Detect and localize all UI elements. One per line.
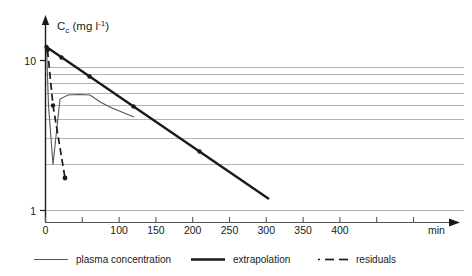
y-axis-title: Cc (mg l-1) bbox=[57, 19, 109, 35]
x-tick-label: 0 bbox=[43, 224, 49, 236]
x-axis-unit-label: min bbox=[428, 224, 445, 236]
x-tick-label: 400 bbox=[331, 224, 349, 236]
y-ticks bbox=[40, 61, 45, 211]
chart-legend: plasma concentration extrapolation resid… bbox=[34, 254, 396, 265]
y-axis-title-unit-open: (mg l bbox=[73, 20, 99, 32]
legend-label-extrapolation: extrapolation bbox=[233, 254, 290, 265]
series-extrapolation bbox=[47, 47, 270, 199]
x-tick-label: 150 bbox=[147, 224, 165, 236]
series-residuals bbox=[48, 50, 66, 178]
x-tick-labels: 0 100 150 200 250 300 350 400 bbox=[43, 224, 349, 236]
y-axis-title-unit-close: ) bbox=[105, 20, 109, 32]
x-tick-label: 200 bbox=[184, 224, 202, 236]
chart-svg: 0 100 150 200 250 300 350 400 min 10 1 C… bbox=[0, 0, 472, 276]
x-ticks bbox=[46, 217, 414, 222]
x-tick-label: 350 bbox=[294, 224, 312, 236]
y-tick-label-10: 10 bbox=[24, 55, 36, 67]
y-tick-label-1: 1 bbox=[30, 205, 36, 217]
x-tick-label: 250 bbox=[221, 224, 239, 236]
legend-label-residuals: residuals bbox=[356, 254, 396, 265]
y-axis-title-main: C bbox=[57, 20, 65, 32]
legend-label-plasma-concentration: plasma concentration bbox=[76, 254, 171, 265]
x-axis bbox=[45, 218, 460, 226]
y-axis-arrow bbox=[42, 15, 49, 25]
x-tick-label: 100 bbox=[110, 224, 128, 236]
x-axis-arrow bbox=[449, 218, 460, 226]
chart-figure: 0 100 150 200 250 300 350 400 min 10 1 C… bbox=[0, 0, 472, 276]
x-tick-label: 300 bbox=[258, 224, 276, 236]
